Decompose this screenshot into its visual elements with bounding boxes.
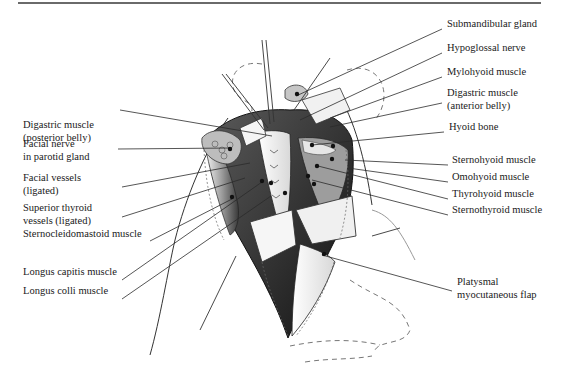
label-dot bbox=[283, 191, 287, 195]
label-line: Mylohyoid muscle bbox=[447, 65, 526, 78]
label-line: Longus capitis muscle bbox=[23, 265, 117, 278]
label-digastric-anterior: Digastric muscle(anterior belly) bbox=[447, 86, 518, 112]
label-dot bbox=[315, 164, 319, 168]
label-line: Superior thyroid bbox=[23, 201, 92, 214]
leader-hypoglossal-nerve bbox=[300, 53, 442, 120]
leader-platysmal-flap bbox=[322, 255, 452, 291]
label-superior-thyroid: Superior thyroidvessels (ligated) bbox=[23, 201, 92, 227]
label-line: Sternohyoid muscle bbox=[452, 153, 536, 166]
label-dot bbox=[228, 147, 232, 151]
label-dot bbox=[260, 179, 264, 183]
label-line: Facial vessels bbox=[23, 171, 81, 184]
label-hypoglossal-nerve: Hypoglossal nerve bbox=[447, 41, 525, 54]
label-dot bbox=[306, 174, 310, 178]
label-longus-capitis: Longus capitis muscle bbox=[23, 265, 117, 278]
label-sternohyoid: Sternohyoid muscle bbox=[452, 153, 536, 166]
label-thyrohyoid: Thyrohyoid muscle bbox=[452, 187, 534, 200]
label-sternothyroid: Sternothyroid muscle bbox=[452, 203, 542, 216]
leader-omohyoid bbox=[348, 168, 448, 182]
label-dot bbox=[295, 92, 299, 96]
label-dot bbox=[331, 144, 335, 148]
label-line: Digastric muscle bbox=[447, 86, 518, 99]
label-dot bbox=[269, 181, 273, 185]
label-longus-colli: Longus colli muscle bbox=[23, 284, 108, 297]
leader-sternocleidomastoid bbox=[150, 199, 232, 241]
label-line: Digastric muscle bbox=[23, 118, 94, 131]
label-dot bbox=[310, 143, 314, 147]
label-line: Sternocleidomastoid muscle bbox=[23, 227, 142, 240]
label-line: (ligated) bbox=[23, 184, 81, 197]
label-line: Facial nerve bbox=[23, 137, 90, 150]
leader-submandibular-gland bbox=[296, 29, 442, 96]
label-platysmal-flap: Platysmalmyocutaneous flap bbox=[457, 275, 537, 301]
label-line: Hyoid bone bbox=[449, 120, 498, 133]
surgical-field bbox=[202, 85, 356, 338]
label-mylohyoid: Mylohyoid muscle bbox=[447, 65, 526, 78]
label-line: Omohyoid muscle bbox=[452, 170, 529, 183]
label-line: Submandibular gland bbox=[447, 17, 537, 30]
label-submandibular-gland: Submandibular gland bbox=[447, 17, 537, 30]
label-line: (anterior belly) bbox=[447, 99, 518, 112]
label-line: myocutaneous flap bbox=[457, 288, 537, 301]
label-dot bbox=[230, 195, 234, 199]
label-line: Platysmal bbox=[457, 275, 537, 288]
label-facial-nerve: Facial nervein parotid gland bbox=[23, 137, 90, 163]
label-line: Longus colli muscle bbox=[23, 284, 108, 297]
label-dot bbox=[330, 157, 334, 161]
leader-sternohyoid bbox=[345, 160, 448, 165]
label-line: Sternothyroid muscle bbox=[452, 203, 542, 216]
label-facial-vessels: Facial vessels(ligated) bbox=[23, 171, 81, 197]
label-hyoid-bone: Hyoid bone bbox=[449, 120, 498, 133]
label-omohyoid: Omohyoid muscle bbox=[452, 170, 529, 183]
label-line: vessels (ligated) bbox=[23, 214, 92, 227]
label-line: in parotid gland bbox=[23, 150, 90, 163]
label-line: Thyrohyoid muscle bbox=[452, 187, 534, 200]
label-line: Hypoglossal nerve bbox=[447, 41, 525, 54]
label-sternocleidomastoid: Sternocleidomastoid muscle bbox=[23, 227, 142, 240]
label-dot bbox=[322, 252, 326, 256]
label-dot bbox=[312, 182, 316, 186]
